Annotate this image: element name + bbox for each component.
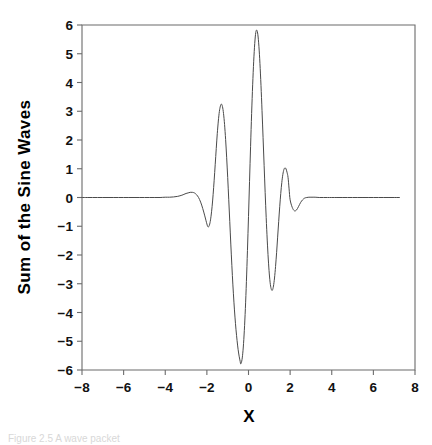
y-tick-label: 3	[65, 104, 73, 119]
y-tick-label: 2	[65, 133, 73, 148]
x-axis-ticks: −8−6−4−202468	[74, 370, 419, 395]
x-tick-label: −8	[74, 380, 90, 395]
y-tick-label: 6	[65, 18, 73, 33]
figure-caption: Figure 2.5 A wave packet	[8, 433, 120, 444]
x-tick-label: 4	[328, 380, 336, 395]
x-tick-label: −4	[158, 380, 174, 395]
y-tick-label: −2	[58, 248, 73, 263]
y-axis-title: Sum of the Sine Waves	[15, 100, 34, 295]
x-tick-label: 8	[411, 380, 419, 395]
y-tick-label: −5	[58, 334, 74, 349]
series-line-sum-of-the-sine-waves	[82, 30, 399, 364]
x-tick-label: 0	[245, 380, 253, 395]
data-series-group	[82, 30, 399, 364]
y-tick-label: 4	[65, 76, 73, 91]
figure-container: 6543210−1−2−3−4−5−6 −8−6−4−202468 Sum of…	[0, 0, 432, 445]
y-axis-ticks: 6543210−1−2−3−4−5−6	[58, 18, 82, 378]
y-tick-label: −3	[58, 277, 74, 292]
y-tick-label: 0	[65, 191, 73, 206]
y-tick-label: −4	[58, 306, 74, 321]
sum-of-sine-waves-chart: 6543210−1−2−3−4−5−6 −8−6−4−202468 Sum of…	[0, 0, 432, 445]
x-tick-label: −6	[116, 380, 132, 395]
x-tick-label: 6	[370, 380, 378, 395]
y-tick-label: −1	[58, 219, 74, 234]
x-tick-label: −2	[199, 380, 214, 395]
y-tick-label: 5	[65, 47, 73, 62]
y-tick-label: 1	[65, 162, 73, 177]
x-axis-title: X	[243, 407, 255, 426]
y-tick-label: −6	[58, 363, 74, 378]
x-tick-label: 2	[286, 380, 294, 395]
